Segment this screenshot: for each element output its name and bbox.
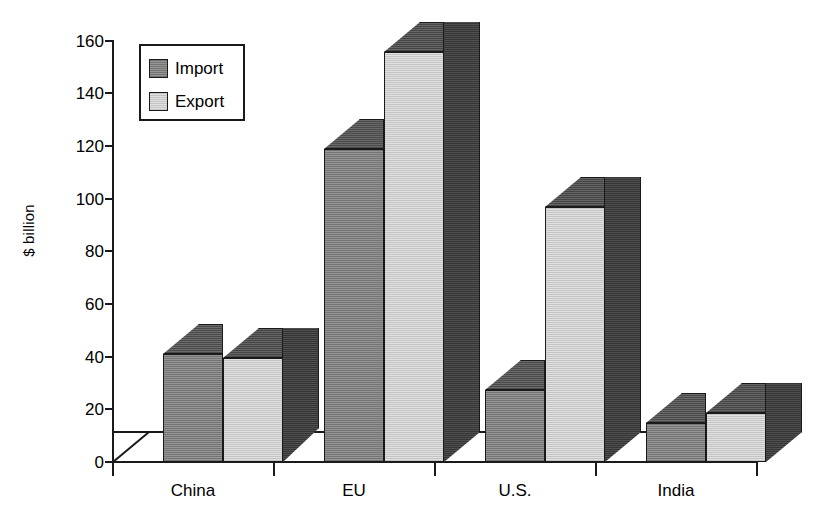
bar-top-face [384,22,444,52]
bar-front-face [384,52,444,462]
bar-group-container [0,0,817,530]
dark-gray-swatch-icon [149,59,168,78]
bar-side-face [605,177,641,462]
bar-side-face [766,383,802,462]
x-axis-tick-labels: China EU U.S. India [0,481,817,507]
bar-front-face [223,358,283,462]
bar-india-export[interactable] [706,413,766,462]
bar-side-face [444,22,480,462]
legend-item-import[interactable]: Import [149,52,243,85]
bar-eu-import[interactable] [324,149,384,462]
bar-top-face [223,328,283,358]
bar-china-export[interactable] [223,358,283,462]
legend-item-export[interactable]: Export [149,85,243,118]
bar-top-face [706,383,766,413]
light-gray-swatch-icon [149,92,168,111]
bar-top-face [545,177,605,207]
bar-us-import[interactable] [485,390,545,462]
bar-us-export[interactable] [545,207,605,462]
x-tick-label-china: China [171,481,215,501]
bar-front-face [485,390,545,462]
bar-top-face [324,119,384,149]
legend-label: Import [175,60,223,77]
bar-chart: $ billion 0 20 40 60 80 100 120 140 160 [0,0,817,530]
bar-top-face [485,360,545,390]
x-tick-label-eu: EU [342,481,366,501]
bar-front-face [324,149,384,462]
bar-front-face [545,207,605,462]
bar-side-face [283,328,319,462]
bar-front-face [646,423,706,462]
legend-label: Export [175,93,224,110]
bar-front-face [163,354,223,462]
bar-top-face [163,324,223,354]
bar-china-import[interactable] [163,354,223,462]
bar-india-import[interactable] [646,423,706,462]
x-tick-label-us: U.S. [498,481,531,501]
chart-legend: Import Export [139,44,245,121]
bar-top-face [646,393,706,423]
bar-front-face [706,413,766,462]
bar-eu-export[interactable] [384,52,444,462]
x-tick-label-india: India [658,481,695,501]
